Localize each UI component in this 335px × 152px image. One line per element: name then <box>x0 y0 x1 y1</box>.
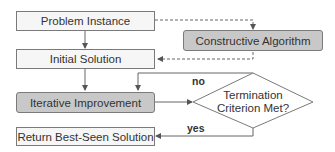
edge-problem-to-constructive <box>155 20 253 29</box>
edge-label-yes: yes <box>187 122 205 134</box>
node-constructive-algorithm: Constructive Algorithm <box>183 30 323 51</box>
node-problem-instance: Problem Instance <box>16 11 155 31</box>
node-initial-solution: Initial Solution <box>16 49 155 69</box>
node-label: Problem Instance <box>41 15 131 27</box>
node-label: Constructive Algorithm <box>195 35 310 47</box>
node-iterative-improvement: Iterative Improvement <box>16 92 155 113</box>
node-label: Initial Solution <box>50 53 122 65</box>
node-label: Return Best-Seen Solution <box>17 131 153 143</box>
node-label: Iterative Improvement <box>30 97 141 109</box>
edge-label-no: no <box>192 75 205 87</box>
termination-line2: Criterion Met? <box>205 102 301 115</box>
node-termination-criterion: Termination Criterion Met? <box>205 89 301 115</box>
termination-line1: Termination <box>205 89 301 102</box>
edge-constructive-to-initial <box>158 52 253 59</box>
node-return-best: Return Best-Seen Solution <box>16 127 155 146</box>
